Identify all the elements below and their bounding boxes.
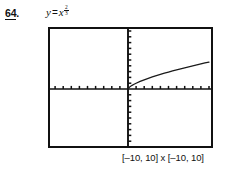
problem-number-value: 64 <box>5 7 16 20</box>
function-curve <box>128 62 209 89</box>
graph-axes <box>50 29 211 146</box>
exponent-denominator: 3 <box>64 11 68 16</box>
figure-container: 64. y=x23 [–10, 10] x [–10, 10] <box>0 0 225 176</box>
problem-number: 64. <box>5 8 19 19</box>
calculator-screen-frame <box>48 27 213 148</box>
window-range-caption: [–10, 10] x [–10, 10] <box>122 152 204 163</box>
graph-plot <box>50 29 211 146</box>
problem-number-dot: . <box>16 7 19 19</box>
equation-label: y=x23 <box>46 6 69 19</box>
equation-operator: = <box>51 7 59 18</box>
equation-exponent-fraction: 23 <box>64 5 69 16</box>
